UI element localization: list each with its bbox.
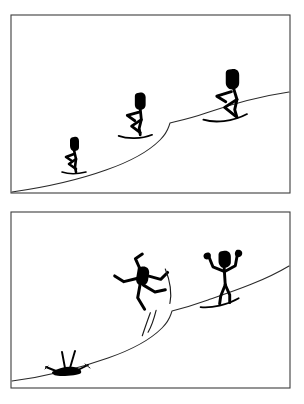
skier-mid-head <box>135 92 146 110</box>
illustration-root: Two-panel ski slope line drawing Top pan… <box>0 0 304 404</box>
skier-high-head <box>226 69 239 89</box>
illustration-canvas <box>0 0 304 404</box>
standing-skier-head <box>219 251 231 268</box>
canvas-background <box>0 0 304 404</box>
standing-skier-torso <box>224 267 225 285</box>
